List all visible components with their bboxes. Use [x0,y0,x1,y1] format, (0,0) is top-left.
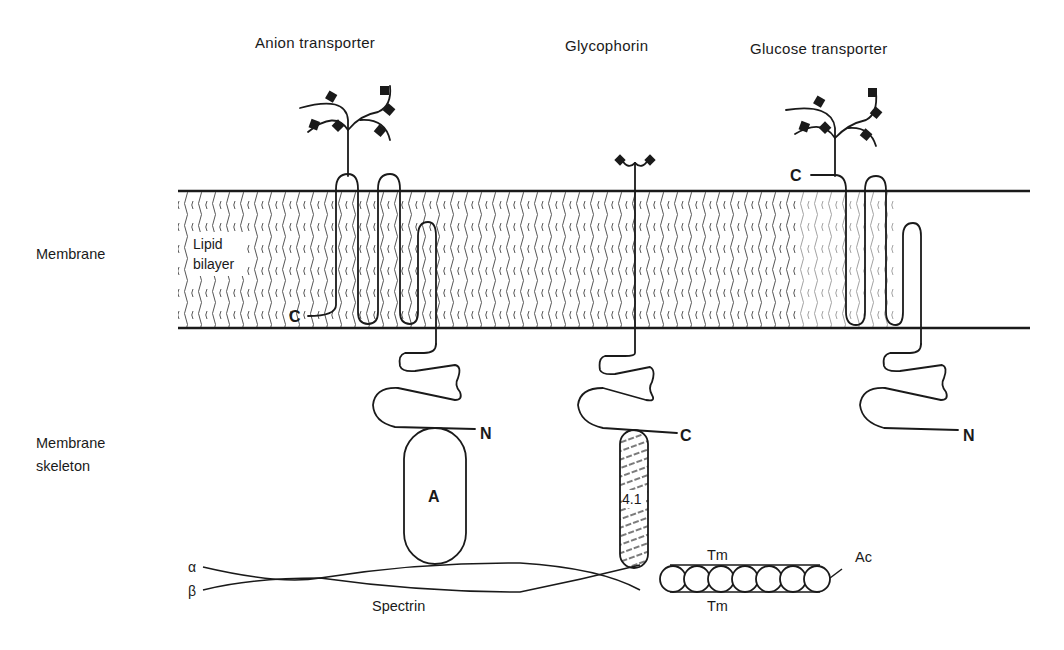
band-4-1-label: 4.1 [622,491,642,507]
actin-subunit [804,566,830,592]
sugar-icon [380,86,389,95]
sugar-icon [870,106,883,119]
membrane-region-label: Membrane [36,246,105,262]
ankyrin-label: A [428,488,440,505]
membrane-diagram: Anion transporter Glycophorin Glucose tr… [0,0,1064,650]
anion-c-terminus: C [289,308,301,325]
actin-subunit [708,566,734,592]
actin-subunit [732,566,758,592]
sugar-icon [868,88,877,97]
sugar-icon [374,124,387,137]
glucose-n-terminus: N [963,427,975,444]
actin-subunit [756,566,782,592]
beta-chain-label: β [188,583,196,599]
actin-subunit [780,566,806,592]
tropomyosin-top-label: Tm [707,547,728,563]
ankyrin: A [404,428,466,564]
spectrin: α β Spectrin [188,559,640,614]
tropomyosin-bottom-label: Tm [707,598,728,614]
actin-label: Ac [855,549,872,565]
sugar-icon [309,119,321,131]
sugar-icon [383,103,396,116]
skeleton-region-label-line1: Membrane [36,435,105,451]
actin-filament: Tm Tm Ac [660,547,872,614]
lipid-bilayer-label-line1: Lipid [193,236,223,252]
anion-transporter-label: Anion transporter [255,34,375,51]
lipid-bilayer-label-line2: bilayer [193,256,235,272]
glucose-c-terminus: C [790,167,802,184]
actin-subunit [684,566,710,592]
sugar-icon [325,91,337,103]
sugar-icon [813,96,825,108]
actin-subunit [660,566,686,592]
alpha-chain-label: α [188,559,196,575]
glycophorin-c-terminus: C [680,427,692,444]
skeleton-region-label-line2: skeleton [36,458,90,474]
anion-n-terminus: N [480,425,492,442]
spectrin-label: Spectrin [372,598,425,614]
glycophorin-label: Glycophorin [565,37,648,54]
glucose-transporter-label: Glucose transporter [750,40,887,57]
band-4-1: 4.1 [620,430,648,568]
